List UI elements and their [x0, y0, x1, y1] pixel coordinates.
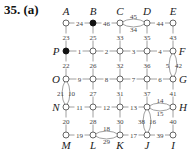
edge-weight-label: 35 [144, 34, 152, 42]
vertex-label: O [52, 73, 60, 85]
vertex-label: K [115, 139, 124, 151]
edge-weight-label: 10 [68, 90, 76, 98]
vertex-r1c3 [144, 48, 150, 54]
vertex-G [170, 76, 176, 82]
vertex-N [63, 104, 69, 110]
vertex-label: J [145, 139, 151, 151]
vertex-label: I [170, 139, 176, 151]
vertex-H [170, 104, 176, 110]
edge-weight-label: 12 [103, 104, 111, 112]
edge-weight-label: 11 [76, 104, 83, 112]
vertex-label: E [169, 5, 177, 17]
edge-weight-label: 31 [117, 90, 125, 98]
edge-weight-label: 1 [78, 48, 82, 56]
edge-weight-label: 37 [144, 90, 152, 98]
vertex-C [117, 20, 123, 26]
edge-weight-label: 42 [175, 62, 183, 70]
vertex-r3c2 [117, 104, 123, 110]
vertex-label: H [178, 101, 188, 113]
vertex-r2c2 [117, 76, 123, 82]
vertex-r1c2 [117, 48, 123, 54]
graph-figure: 35. (a) 24464534442325333543123422263236… [0, 0, 194, 164]
edge-weight-label: 34 [130, 26, 138, 34]
edge-weight-label: 28 [90, 118, 98, 126]
vertex-r3c1 [90, 104, 96, 110]
vertex-r3c3 [144, 104, 150, 110]
edge-weight-label: 26 [90, 62, 98, 70]
vertex-label: A [62, 5, 70, 17]
vertex-A [63, 20, 69, 26]
vertex-E [170, 20, 176, 26]
vertex-P [63, 48, 69, 54]
edge-weight-label: 27 [90, 90, 98, 98]
edge-weight-label: 41 [170, 90, 178, 98]
vertex-label: L [89, 139, 96, 151]
edge-weight-label: 2 [105, 48, 109, 56]
edge-weight-label: 32 [117, 62, 125, 70]
vertex-B [90, 20, 96, 26]
edge-weight-label: 14 [157, 97, 165, 105]
edge-weight-label: 4 [158, 48, 162, 56]
edge-weight-label: 21 [57, 90, 65, 98]
edge-weight-label: 6 [158, 76, 162, 84]
vertex-J [144, 132, 150, 138]
edge-weight-label: 40 [170, 118, 178, 126]
vertex-r1c1 [90, 48, 96, 54]
edge-weight-label: 43 [170, 34, 178, 42]
vertex-label: F [178, 45, 186, 57]
vertex-label: G [179, 73, 187, 85]
edge-weight-label: 38 [138, 118, 146, 126]
vertex-r2c3 [144, 76, 150, 82]
vertex-I [170, 132, 176, 138]
edge-weight-label: 29 [103, 138, 111, 146]
vertex-label: N [51, 101, 60, 113]
vertex-r2c1 [90, 76, 96, 82]
edge-weight-label: 13 [130, 104, 138, 112]
vertex-label: B [90, 5, 97, 17]
edge-weight-label: 33 [117, 34, 125, 42]
edge-weight-label: 23 [63, 34, 71, 42]
edge-weight-label: 20 [63, 118, 71, 126]
vertex-K [117, 132, 123, 138]
edge-weight-label: 30 [117, 118, 125, 126]
edge-weight-label: 7 [132, 76, 136, 84]
edge-weight-label: 5 [166, 62, 170, 70]
edge-weight-label: 15 [157, 110, 165, 118]
edge-weight-label: 46 [103, 20, 111, 28]
vertex-O [63, 76, 69, 82]
vertex-label: D [142, 5, 151, 17]
edge-weight-label: 16 [149, 118, 157, 126]
edge-weight-label: 39 [157, 132, 165, 140]
edge-weight-label: 3 [132, 48, 136, 56]
edge-weight-label: 8 [105, 76, 109, 84]
vertex-label: P [52, 45, 60, 57]
edge-weight-label: 45 [130, 13, 138, 21]
edge-weight-label: 9 [78, 76, 82, 84]
edge-weight-label: 19 [76, 132, 84, 140]
vertex-F [170, 48, 176, 54]
edge-weight-label: 17 [130, 132, 138, 140]
edge [169, 51, 173, 79]
edge-weight-label: 25 [90, 34, 98, 42]
vertex-L [90, 132, 96, 138]
edge-weight-label: 36 [144, 62, 152, 70]
edge-weight-label: 24 [76, 20, 84, 28]
figure-title: 35. (a) [4, 2, 39, 18]
edge-weight-label: 44 [157, 20, 165, 28]
edge-weight-label: 18 [103, 125, 111, 133]
vertex-label: M [60, 139, 71, 151]
vertex-M [63, 132, 69, 138]
weighted-grid-graph: 2446453444232533354312342226323654298762… [0, 0, 194, 164]
vertex-D [144, 20, 150, 26]
edge-weight-label: 22 [63, 62, 71, 70]
vertex-label: C [116, 5, 124, 17]
